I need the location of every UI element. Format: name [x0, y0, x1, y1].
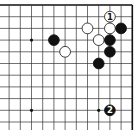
white-stone-circle — [60, 46, 71, 57]
move-number-label: 2 — [107, 105, 113, 115]
white-stone — [82, 23, 93, 34]
black-stone — [116, 23, 127, 34]
white-stone-circle — [93, 35, 104, 46]
go-board-diagram: 12 — [0, 0, 135, 135]
black-stone-circle — [105, 35, 116, 46]
black-stone-circle — [105, 46, 116, 57]
move-number-label: 1 — [107, 12, 113, 22]
white-stone — [93, 35, 104, 46]
black-stone-circle — [93, 58, 104, 69]
white-stone-circle — [105, 23, 116, 34]
star-point — [97, 109, 100, 112]
star-point — [30, 109, 33, 112]
black-stone-circle — [116, 23, 127, 34]
black-stone — [105, 35, 116, 46]
black-stone-circle — [49, 35, 60, 46]
black-stone — [93, 58, 104, 69]
white-stone-circle — [82, 23, 93, 34]
star-point — [30, 39, 33, 42]
white-stone — [60, 46, 71, 57]
black-stone — [105, 46, 116, 57]
black-stone: 2 — [105, 105, 116, 116]
black-stone — [49, 35, 60, 46]
white-stone: 1 — [105, 11, 116, 22]
white-stone — [105, 23, 116, 34]
